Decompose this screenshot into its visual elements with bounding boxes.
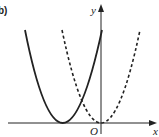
graph: b) x y O <box>0 0 159 137</box>
origin-label: O <box>90 125 98 137</box>
part-label: b) <box>0 5 7 16</box>
y-axis-label: y <box>90 4 96 16</box>
solid-parabola <box>25 30 102 123</box>
x-axis-label: x <box>152 125 158 137</box>
y-axis-arrow-icon <box>98 4 104 12</box>
